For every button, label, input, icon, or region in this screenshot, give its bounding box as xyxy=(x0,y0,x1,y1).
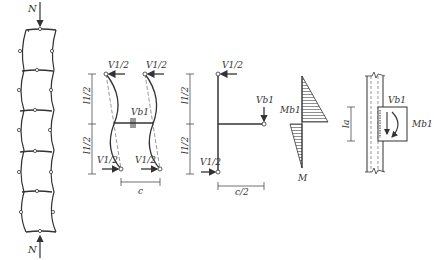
dim-half-width-label: c/2 xyxy=(235,187,249,197)
beam-shear-label: Vb1 xyxy=(256,95,274,105)
shear-bottom-label: V1/2 xyxy=(200,157,221,167)
shear-top-right-label: V1/2 xyxy=(146,60,167,70)
moment-label: Mb1 xyxy=(279,105,301,115)
dim-lower-half-label: l1/2 xyxy=(82,136,92,154)
dim-lower-half-label: l1/2 xyxy=(180,136,190,154)
shear-bottom-left-label: V1/2 xyxy=(97,155,118,165)
beam-shear-label: Vb1 xyxy=(388,95,406,105)
dim-upper-half-label: l1/2 xyxy=(180,86,190,104)
panel-b-wall-pair: l1/2 l1/2 Vb1 V1/2 V1/2 V1/2 V1/2 c xyxy=(82,60,167,196)
shear-top-left-label: V1/2 xyxy=(108,60,129,70)
dim-upper-half-label: l1/2 xyxy=(82,86,92,104)
moment-diagram-label: M xyxy=(297,173,308,183)
panel-d-moment-diagram: Mb1 M xyxy=(279,76,328,183)
panel-c-half-wall: l1/2 l1/2 V1/2 V1/2 Vb1 c/2 xyxy=(180,60,274,197)
coupled-wall-diagram: N N l1/2 l1/2 xyxy=(0,0,434,260)
shear-bottom-right-label: V1/2 xyxy=(135,155,156,165)
dim-width-label: c xyxy=(138,186,143,196)
beam-moment-label: Mb1 xyxy=(411,119,433,129)
beam-shear-label: Vb1 xyxy=(131,107,149,117)
anchorage-length-label: la xyxy=(341,120,351,128)
panel-e-joint-detail: la Vb1 Mb1 xyxy=(341,72,433,174)
shear-top-label: V1/2 xyxy=(222,60,243,70)
diagram-svg: N N l1/2 l1/2 xyxy=(0,0,434,260)
panel-a-deformed-wall: N N xyxy=(17,2,56,258)
axial-load-top-label: N xyxy=(27,3,38,14)
axial-load-bottom-label: N xyxy=(27,244,38,255)
